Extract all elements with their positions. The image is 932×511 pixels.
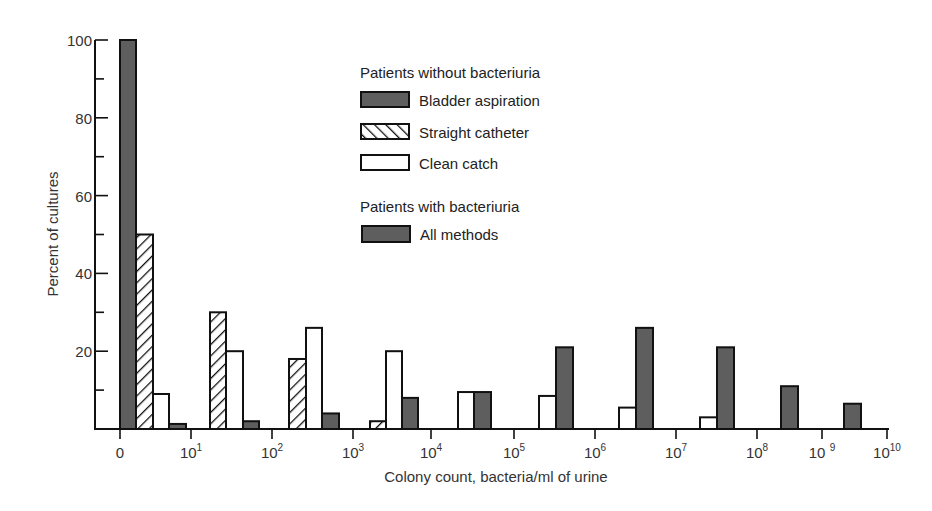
bar-all-methods <box>322 413 339 429</box>
x-tick-label: 104 <box>420 442 443 461</box>
legend-label-all-methods: All methods <box>420 226 498 243</box>
x-tick-label: 107 <box>665 442 688 461</box>
bar-bladder-aspiration <box>120 40 136 429</box>
x-axis: 010110210310410510610710810 91010 <box>94 429 901 461</box>
bar-all-methods <box>474 392 491 429</box>
legend-label-straight-catheter: Straight catheter <box>419 124 529 141</box>
bar-straight-catheter <box>210 312 226 429</box>
y-tick-label: 40 <box>75 265 92 282</box>
legend-swatch-clean-catch <box>361 155 409 170</box>
bar-all-methods <box>402 398 418 429</box>
legend-label-clean-catch: Clean catch <box>419 155 498 172</box>
bar-clean-catch <box>386 351 402 429</box>
bar-clean-catch <box>226 351 243 429</box>
bar-all-methods <box>169 424 186 429</box>
bar-straight-catheter <box>289 359 306 429</box>
legend-swatch-bladder-aspiration <box>361 92 409 107</box>
bar-chart: 20406080100 010110210310410510610710810 … <box>0 0 932 511</box>
legend-heading-with: Patients with bacteriuria <box>360 198 520 215</box>
bar-straight-catheter <box>136 235 153 430</box>
bar-clean-catch <box>306 328 322 429</box>
x-tick-label: 1010 <box>873 442 901 461</box>
bar-clean-catch <box>539 396 556 429</box>
y-axis-title: Percent of cultures <box>44 171 61 296</box>
y-tick-label: 100 <box>67 32 92 49</box>
x-tick-label: 10 9 <box>809 442 836 461</box>
y-tick-label: 60 <box>75 188 92 205</box>
x-tick-label: 0 <box>116 444 124 461</box>
x-tick-label: 103 <box>342 442 365 461</box>
bar-all-methods <box>636 328 653 429</box>
x-tick-label: 106 <box>584 442 607 461</box>
x-tick-label: 102 <box>261 442 284 461</box>
y-tick-label: 80 <box>75 110 92 127</box>
legend-swatch-all-methods <box>362 226 410 242</box>
y-axis: 20406080100 <box>67 32 108 429</box>
legend-swatch-straight-catheter <box>361 124 409 139</box>
bar-clean-catch <box>153 394 169 429</box>
x-tick-label: 108 <box>746 442 769 461</box>
bar-clean-catch <box>700 417 717 429</box>
bar-all-methods <box>243 421 259 429</box>
legend-heading-without: Patients without bacteriuria <box>360 64 541 81</box>
bar-all-methods <box>556 347 573 429</box>
bar-clean-catch <box>619 408 636 429</box>
x-tick-label: 101 <box>180 442 203 461</box>
bar-all-methods <box>717 347 734 429</box>
y-tick-label: 20 <box>75 343 92 360</box>
bar-all-methods <box>781 386 798 429</box>
legend: Patients without bacteriuria Bladder asp… <box>360 64 541 243</box>
x-axis-title: Colony count, bacteria/ml of urine <box>384 468 607 485</box>
bar-all-methods <box>844 404 861 429</box>
bar-straight-catheter <box>370 421 386 429</box>
legend-label-bladder-aspiration: Bladder aspiration <box>419 92 540 109</box>
bar-clean-catch <box>458 392 474 429</box>
x-tick-label: 105 <box>503 442 526 461</box>
